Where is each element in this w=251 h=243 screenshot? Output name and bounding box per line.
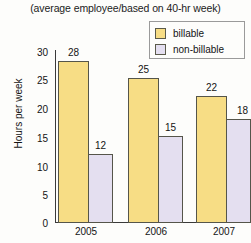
x-tick-2005: 2005	[61, 226, 111, 237]
y-axis-title: Hours per week	[13, 74, 24, 154]
bar-2007-non-billable[interactable]	[226, 119, 251, 223]
bar-value-2005-non-billable: 12	[88, 141, 113, 151]
bar-value-2006-billable: 25	[128, 65, 159, 75]
bar-value-2007-non-billable: 18	[230, 106, 251, 116]
bar-2007-billable[interactable]	[196, 96, 227, 223]
legend-label-non-billable: non-billable	[173, 44, 224, 55]
chart-legend: billable non-billable	[149, 21, 245, 59]
chart-subtitle: (average employee/based on 40-hr week)	[0, 2, 251, 14]
bar-value-2005-billable: 28	[58, 48, 89, 58]
bar-chart: (average employee/based on 40-hr week) b…	[0, 0, 251, 243]
x-tick-2007: 2007	[199, 226, 249, 237]
bar-value-2007-billable: 22	[196, 83, 227, 93]
legend-item-billable: billable	[155, 25, 244, 41]
y-tick-0: 0	[24, 219, 48, 229]
bar-2005-non-billable[interactable]	[88, 154, 113, 223]
y-tick-5: 5	[24, 191, 48, 201]
y-tick-10: 10	[24, 163, 48, 173]
legend-swatch-billable	[155, 28, 166, 39]
legend-swatch-non-billable	[155, 44, 166, 55]
bar-2006-non-billable[interactable]	[158, 136, 183, 223]
y-tick-25: 25	[24, 76, 48, 86]
legend-item-non-billable: non-billable	[155, 41, 244, 57]
y-tick-20: 20	[24, 105, 48, 115]
y-tick-15: 15	[24, 134, 48, 144]
y-axis-line	[55, 50, 56, 223]
x-tick-2006: 2006	[131, 226, 181, 237]
y-tick-30: 30	[24, 48, 48, 58]
bar-value-2006-non-billable: 15	[158, 123, 183, 133]
bar-2006-billable[interactable]	[128, 78, 159, 223]
legend-label-billable: billable	[173, 28, 204, 39]
bar-2005-billable[interactable]	[58, 61, 89, 223]
